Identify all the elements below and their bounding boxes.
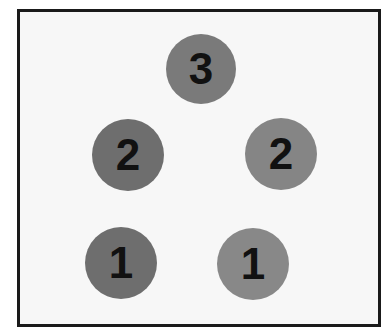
node-3-top: 3 [166, 34, 236, 104]
node-label: 1 [241, 242, 265, 286]
node-label: 2 [269, 132, 293, 176]
node-1-right: 1 [217, 228, 289, 300]
node-1-left: 1 [85, 227, 157, 299]
node-label: 3 [189, 47, 213, 91]
node-2-right: 2 [245, 118, 317, 190]
node-2-left: 2 [92, 119, 164, 191]
node-label: 1 [109, 241, 133, 285]
node-label: 2 [116, 133, 140, 177]
